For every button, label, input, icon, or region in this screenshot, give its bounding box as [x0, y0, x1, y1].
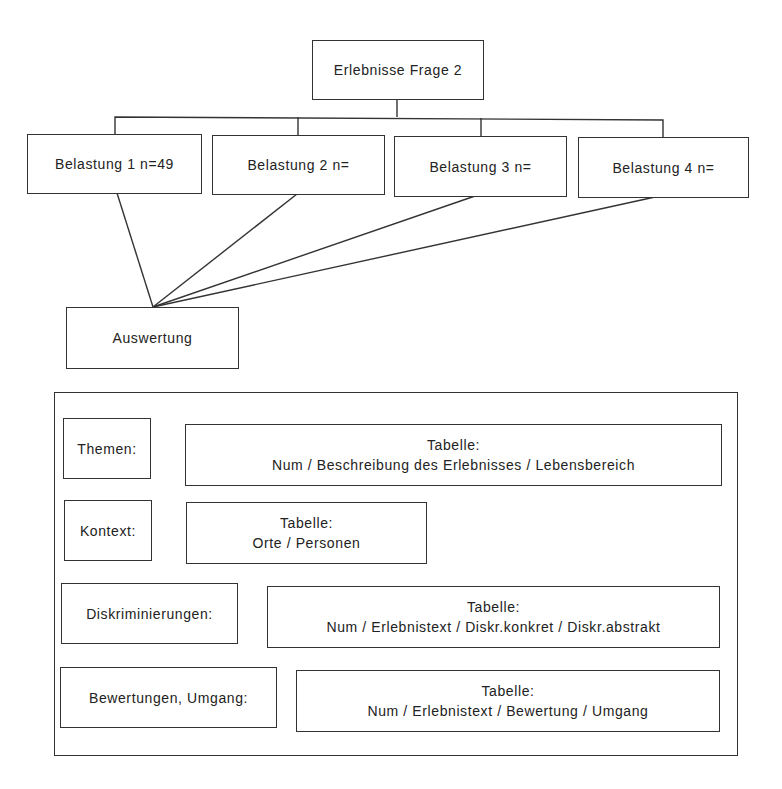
category-diskriminierungen-label: Diskriminierungen:	[61, 583, 238, 644]
auswertung-label: Auswertung	[113, 328, 193, 348]
table-title: Tabelle:	[427, 435, 480, 455]
category-kontext-table: Tabelle: Orte / Personen	[186, 502, 427, 564]
category-diskriminierungen-table: Tabelle: Num / Erlebnistext / Diskr.konk…	[267, 586, 720, 648]
category-kontext-label: Kontext:	[64, 500, 152, 561]
table-columns: Num / Erlebnistext / Bewertung / Umgang	[368, 701, 649, 721]
belastung-1-label: Belastung 1 n=49	[55, 154, 174, 174]
root-node-label: Erlebnisse Frage 2	[334, 60, 462, 80]
category-label-text: Kontext:	[80, 521, 136, 541]
table-columns: Num / Beschreibung des Erlebnisses / Leb…	[272, 455, 635, 475]
table-title: Tabelle:	[481, 681, 534, 701]
belastung-2-node: Belastung 2 n=	[212, 135, 385, 195]
category-bewertungen-label: Bewertungen, Umgang:	[60, 667, 277, 728]
category-themen-table: Tabelle: Num / Beschreibung des Erlebnis…	[185, 424, 722, 486]
table-columns: Num / Erlebnistext / Diskr.konkret / Dis…	[326, 617, 660, 637]
belastung-4-label: Belastung 4 n=	[612, 158, 714, 178]
category-themen-label: Themen:	[63, 418, 151, 479]
category-label-text: Diskriminierungen:	[86, 604, 213, 624]
category-bewertungen-table: Tabelle: Num / Erlebnistext / Bewertung …	[296, 670, 720, 732]
category-label-text: Bewertungen, Umgang:	[89, 688, 248, 708]
auswertung-node: Auswertung	[66, 307, 239, 369]
table-columns: Orte / Personen	[253, 533, 361, 553]
belastung-3-node: Belastung 3 n=	[394, 136, 567, 197]
root-node-erlebnisse: Erlebnisse Frage 2	[312, 40, 484, 100]
belastung-1-node: Belastung 1 n=49	[27, 134, 202, 194]
category-label-text: Themen:	[77, 439, 136, 459]
belastung-2-label: Belastung 2 n=	[247, 155, 349, 175]
belastung-3-label: Belastung 3 n=	[429, 157, 531, 177]
table-title: Tabelle:	[280, 513, 333, 533]
belastung-4-node: Belastung 4 n=	[578, 137, 749, 198]
table-title: Tabelle:	[467, 597, 520, 617]
